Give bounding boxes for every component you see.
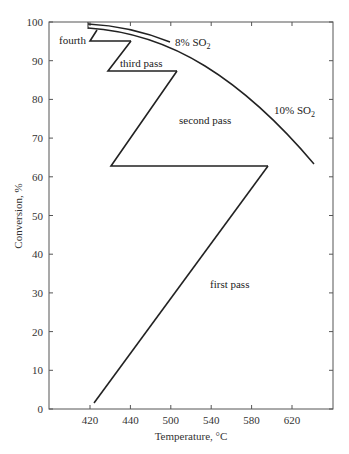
x-ticks — [90, 22, 292, 409]
y-tick-label: 10 — [32, 364, 44, 376]
y-tick-label: 20 — [32, 326, 44, 338]
chart: 0102030405060708090100 42044050054058062… — [0, 0, 349, 454]
y-ticks — [49, 22, 333, 409]
x-tick-label: 500 — [163, 414, 180, 426]
y-tick-label: 40 — [32, 248, 44, 260]
x-axis-title: Temperature, °C — [155, 430, 228, 442]
x-tick-label: 440 — [122, 414, 139, 426]
equilibrium-10pct-curve — [88, 28, 314, 164]
label-10pct-so2: 10% SO2 — [274, 104, 315, 119]
x-tick-labels: 420440500540580620 — [82, 414, 301, 426]
x-tick-label: 620 — [284, 414, 301, 426]
label-second-pass: second pass — [179, 114, 231, 126]
y-tick-labels: 0102030405060708090100 — [27, 16, 44, 415]
fourth-pass-line — [90, 30, 131, 41]
label-8pct-so2: 8% SO2 — [175, 36, 210, 51]
x-tick-label: 580 — [243, 414, 260, 426]
y-tick-label: 50 — [32, 210, 44, 222]
x-tick-label: 420 — [82, 414, 99, 426]
plot-frame — [49, 22, 333, 409]
label-fourth: fourth — [59, 34, 86, 46]
y-tick-label: 70 — [32, 132, 44, 144]
y-tick-label: 90 — [32, 55, 44, 67]
y-tick-label: 0 — [38, 403, 44, 415]
x-tick-label: 540 — [203, 414, 220, 426]
y-tick-label: 80 — [32, 93, 44, 105]
y-tick-label: 30 — [32, 287, 44, 299]
y-axis-title: Conversion, % — [12, 183, 24, 248]
label-first-pass: first pass — [210, 278, 249, 290]
label-third-pass: third pass — [120, 57, 162, 69]
y-tick-label: 60 — [32, 171, 44, 183]
y-tick-label: 100 — [27, 16, 44, 28]
equilibrium-8pct-curve — [88, 24, 170, 42]
